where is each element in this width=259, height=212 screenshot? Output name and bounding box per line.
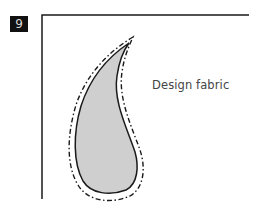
fabric-frame [42, 15, 249, 199]
paisley-diagram [0, 0, 259, 212]
design-fabric-label: Design fabric [152, 78, 229, 92]
